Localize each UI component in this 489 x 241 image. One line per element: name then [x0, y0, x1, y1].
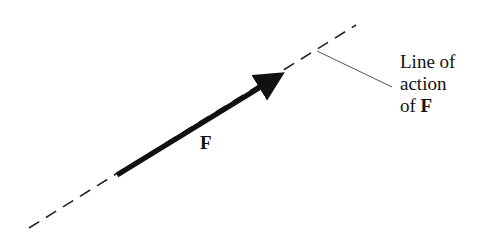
vector-label: F — [200, 132, 212, 153]
annotation-line-1: Line of — [400, 51, 456, 72]
annotation-line-2: action — [400, 73, 447, 94]
annotation-line-3: of F — [400, 95, 432, 116]
annotation-line-3-prefix: of — [400, 95, 421, 116]
force-diagram: F Line of action of F — [0, 0, 489, 241]
leader-line — [317, 51, 392, 87]
annotation-symbol-F: F — [421, 95, 433, 116]
force-vector-arrow — [117, 80, 272, 175]
